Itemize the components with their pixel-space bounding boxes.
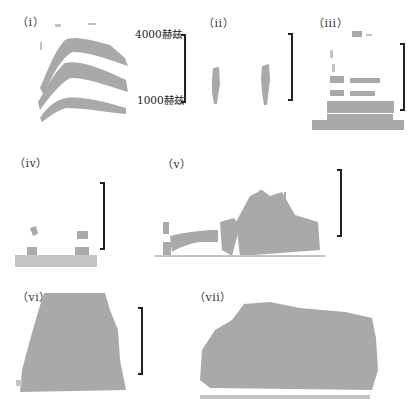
spectrograms: [0, 0, 408, 413]
spectrogram-v: [155, 190, 325, 257]
spectrogram-i: [38, 23, 128, 122]
spectrogram-iii: [312, 31, 404, 130]
spectrogram-vii: [200, 302, 378, 399]
spectrogram-ii: [212, 64, 270, 105]
spectrogram-vi: [16, 293, 126, 392]
spectrogram-iv: [15, 226, 97, 267]
